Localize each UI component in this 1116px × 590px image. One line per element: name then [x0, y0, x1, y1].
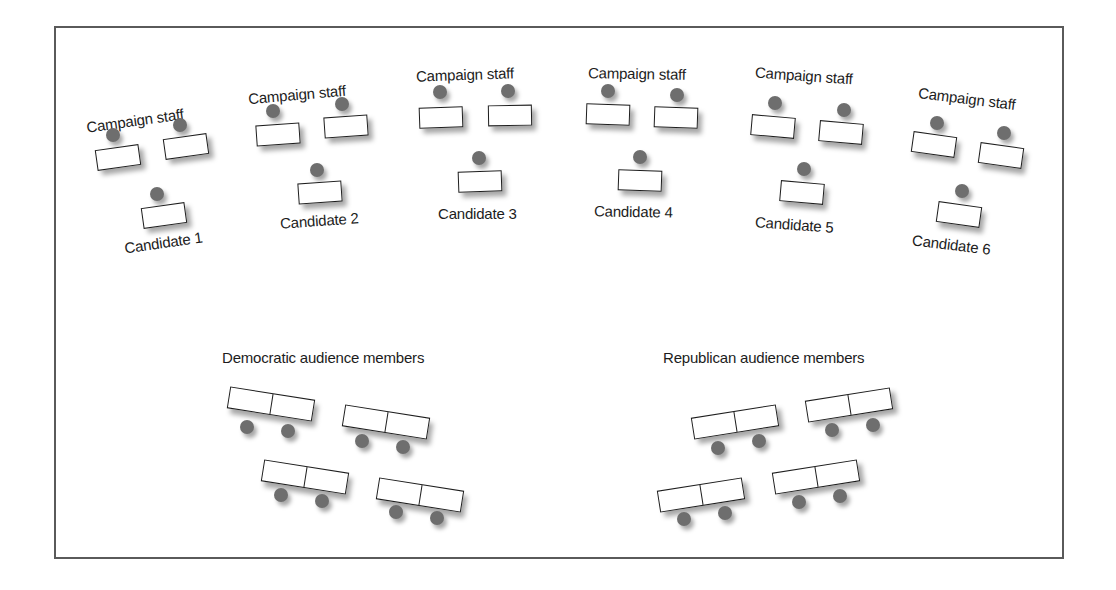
audience-head	[240, 420, 254, 434]
audience-head	[281, 424, 295, 438]
candidate-desk	[618, 169, 663, 192]
audience-head	[396, 440, 410, 454]
staff-desk	[586, 103, 631, 126]
republican-audience-label: Republican audience members	[663, 349, 864, 366]
democratic-audience-label: Democratic audience members	[222, 349, 424, 366]
audience-head	[711, 441, 725, 455]
audience-head	[833, 489, 847, 503]
audience-head	[677, 512, 691, 526]
audience-head	[355, 434, 369, 448]
candidate-head	[633, 150, 647, 164]
audience-head	[866, 418, 880, 432]
candidate-head	[472, 151, 486, 165]
candidate-desk	[779, 180, 825, 205]
staff-desk	[750, 114, 796, 139]
staff-head	[768, 96, 782, 110]
staff-head	[837, 103, 851, 117]
staff-desk	[255, 122, 300, 146]
staff-head	[670, 88, 684, 102]
staff-desk	[419, 106, 464, 129]
candidate-label: Candidate 4	[594, 202, 673, 220]
staff-head	[501, 84, 515, 98]
candidate-head	[955, 184, 969, 198]
staff-head	[335, 97, 349, 111]
staff-desk	[654, 106, 699, 129]
staff-desk	[488, 105, 532, 127]
audience-head	[752, 434, 766, 448]
candidate-head	[797, 162, 811, 176]
audience-head	[792, 495, 806, 509]
staff-label: Campaign staff	[588, 64, 686, 83]
staff-head	[997, 126, 1011, 140]
candidate-desk	[297, 180, 342, 204]
audience-head	[315, 494, 329, 508]
staff-head	[173, 118, 187, 132]
audience-head	[718, 506, 732, 520]
audience-head	[389, 505, 403, 519]
audience-head	[430, 511, 444, 525]
staff-head	[266, 104, 280, 118]
candidate-head	[310, 163, 324, 177]
staff-head	[601, 84, 615, 98]
staff-head	[106, 128, 120, 142]
staff-desk	[323, 114, 368, 138]
candidate-desk	[458, 170, 503, 193]
audience-head	[825, 423, 839, 437]
staff-desk	[818, 120, 864, 145]
staff-head	[433, 85, 447, 99]
candidate-label: Candidate 3	[438, 205, 517, 222]
staff-label: Campaign staff	[416, 64, 514, 84]
staff-head	[930, 116, 944, 130]
diagram-frame	[54, 26, 1064, 559]
candidate-head	[150, 187, 164, 201]
audience-head	[274, 488, 288, 502]
